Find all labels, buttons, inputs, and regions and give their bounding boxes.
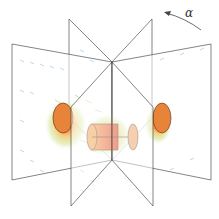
figure-canvas [0,0,219,219]
body-right [153,103,171,133]
rotation-label: α [185,6,193,20]
rotation-arrow-icon [164,11,201,30]
body-left [53,103,73,133]
